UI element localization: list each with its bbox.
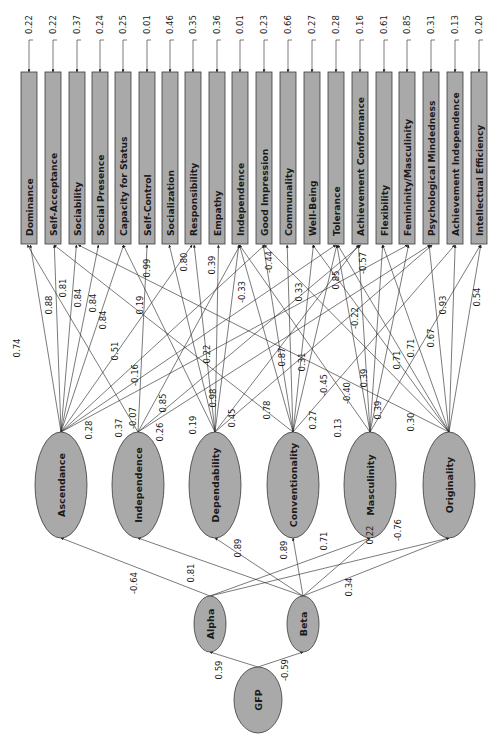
loading-coefficient: 0.71 <box>406 339 416 358</box>
loading-coefficient: -0.07 <box>128 407 138 429</box>
loading-coefficient: 0.33 <box>294 283 304 302</box>
structural-coefficient: 0.81 <box>186 564 196 583</box>
latent-factor: Conventionality <box>267 432 319 538</box>
error-variance-label: 0.20 <box>474 15 484 34</box>
structural-coefficient: 0.89 <box>233 539 243 558</box>
loading-coefficient: 0.13 <box>333 419 343 438</box>
loading-path <box>61 245 124 432</box>
loading-coefficient: -0.22 <box>350 307 360 329</box>
error-variance-label: 0.25 <box>118 15 128 34</box>
observed-variable-label: Well-Being <box>307 180 318 236</box>
error-variance-label: 0.35 <box>188 15 198 34</box>
observed-variable: Self-Control0.01 <box>139 15 155 244</box>
latent-factor-label: Masculinity <box>365 454 376 516</box>
error-variance-label: 0.23 <box>259 15 269 34</box>
loading-coefficient: 0.93 <box>438 296 448 315</box>
loading-coefficient: 0.85 <box>158 394 168 413</box>
loading-coefficient: 0.19 <box>188 416 198 435</box>
loading-path <box>215 245 239 432</box>
loading-path <box>138 245 361 432</box>
loading-coefficient: 0.39 <box>207 256 217 275</box>
latent-factor: Ascendance <box>35 432 87 538</box>
observed-variable-label: Self-Acceptance <box>48 153 59 236</box>
latent-factor-label: Dependability <box>210 447 221 523</box>
loading-coefficient: 0.78 <box>262 401 272 420</box>
observed-variable: Tolerance0.28 <box>328 15 344 244</box>
observed-variable-label: Psychological Mindedness <box>426 100 437 236</box>
loading-path <box>27 245 138 432</box>
observed-variable: Femininity/Masculinity0.85 <box>399 15 415 244</box>
latent-factor-label: Independence <box>133 447 144 523</box>
structural-coefficient: 0.89 <box>279 541 289 560</box>
observed-variable: Well-Being0.27 <box>304 15 320 244</box>
loading-coefficient: 0.54 <box>472 288 482 307</box>
loading-path <box>123 245 215 432</box>
observed-variable-label: Capacity for Status <box>118 136 129 236</box>
latent-factor: Masculinity <box>344 432 396 538</box>
observed-variable: Dominance0.22 <box>21 15 37 244</box>
higher-order-factor: GFP <box>234 667 282 733</box>
error-variance-label: 0.01 <box>235 15 245 34</box>
loading-coefficient: 0.39 <box>373 401 383 420</box>
gfp-coefficient: -0.59 <box>280 659 290 681</box>
loading-path <box>54 245 293 432</box>
loading-coefficient: -0.33 <box>237 281 247 303</box>
loading-path <box>54 245 61 432</box>
structural-path <box>303 538 370 596</box>
structural-coefficient: 0.34 <box>344 578 354 597</box>
loading-coefficient: 0.19 <box>135 296 145 315</box>
observed-variable-label: Communality <box>283 168 294 236</box>
loading-path <box>449 245 455 432</box>
error-variance-label: 0.37 <box>72 15 82 34</box>
error-variance-label: 0.22 <box>24 15 34 34</box>
observed-variable-label: Social Presence <box>95 155 106 237</box>
observed-variable: Achievement Independence0.13 <box>447 15 463 244</box>
structural-coefficient: -0.76 <box>393 519 403 541</box>
latent-factors: AscendanceIndependenceDependabilityConve… <box>35 432 475 538</box>
observed-variables: Dominance0.22Self-Acceptance0.22Sociabil… <box>21 15 487 244</box>
structural-coefficient: 0.22 <box>365 526 375 545</box>
loading-path <box>61 245 192 432</box>
loading-path <box>61 245 76 432</box>
loading-coefficient: 0.84 <box>88 294 98 313</box>
loading-path <box>293 245 313 432</box>
observed-variable-label: Intellectual Efficiency <box>474 125 485 236</box>
structural-coefficient: -0.64 <box>129 572 139 594</box>
loading-coefficient: 0.87 <box>277 348 287 367</box>
observed-variable-label: Achievement Conformance <box>355 97 366 236</box>
loading-path <box>138 245 240 432</box>
observed-variable: Independence0.01 <box>232 15 248 244</box>
loading-path <box>61 245 336 432</box>
observed-variable-label: Independence <box>235 163 246 236</box>
loading-coefficient: -0.40 <box>342 382 352 404</box>
error-variance-label: 0.22 <box>48 15 58 34</box>
latent-factor-label: Conventionality <box>288 442 299 527</box>
loading-coefficient: 0.84 <box>98 311 108 330</box>
structural-path <box>210 538 449 596</box>
observed-variable-label: Flexibility <box>379 185 390 236</box>
error-variance-label: 0.24 <box>95 15 105 34</box>
observed-variable: Empathy0.36 <box>209 15 225 244</box>
latent-factor-label: Ascendance <box>56 453 67 517</box>
observed-variable-label: Femininity/Masculinity <box>402 119 413 236</box>
error-variance-label: 0.28 <box>331 15 341 34</box>
loading-coefficient: 0.30 <box>406 413 416 432</box>
error-variance-label: 0.36 <box>212 15 222 34</box>
observed-variable-label: Empathy <box>212 190 223 236</box>
loading-coefficient: 0.26 <box>155 423 165 442</box>
loading-coefficient: 0.88 <box>44 296 54 315</box>
loading-path <box>30 245 61 432</box>
observed-variable: Flexibility0.61 <box>376 15 392 244</box>
higher-order-factor-label: GFP <box>253 689 264 710</box>
loading-coefficient: 0.27 <box>308 411 318 430</box>
observed-variable: Responsibility0.35 <box>185 15 201 244</box>
observed-variable: Psychological Mindedness0.31 <box>423 15 439 244</box>
gfp-coefficient: 0.59 <box>214 661 224 680</box>
higher-order-factors: AlphaBetaGFP <box>194 596 319 733</box>
observed-variable-label: Socialization <box>165 170 176 236</box>
higher-order-factor-label: Alpha <box>205 609 216 640</box>
loading-coefficient: -0.44 <box>264 251 274 273</box>
loading-coefficient: 0.22 <box>202 345 212 364</box>
observed-variable: Achievement Conformance0.16 <box>352 15 368 244</box>
error-variance-label: 0.13 <box>450 15 460 34</box>
